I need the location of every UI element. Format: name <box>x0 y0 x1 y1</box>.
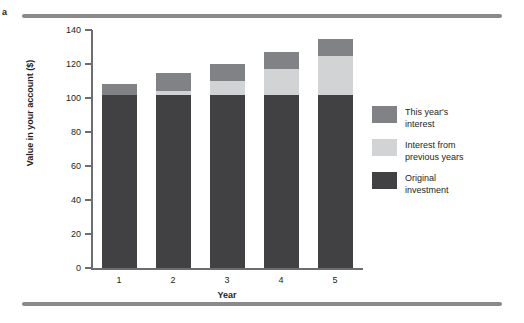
chart-legend: This year's interestInterest from previo… <box>372 106 520 205</box>
y-axis-tick <box>85 63 92 65</box>
legend-swatch <box>372 172 397 189</box>
bar-segment <box>264 95 299 268</box>
legend-swatch <box>372 106 397 123</box>
x-axis-tick-label: 5 <box>315 275 355 285</box>
legend-swatch <box>372 139 397 156</box>
y-axis-tick <box>85 165 92 167</box>
x-axis-title: Year <box>92 290 362 300</box>
bar-stack <box>264 52 299 268</box>
plot-area <box>92 30 362 268</box>
bar-segment <box>318 56 353 95</box>
y-axis-tick <box>85 199 92 201</box>
divider-bottom <box>22 302 502 306</box>
x-axis-tick-label: 3 <box>207 275 247 285</box>
x-axis-tick-label: 2 <box>153 275 193 285</box>
y-axis-tick <box>85 29 92 31</box>
y-axis-tick-label: 20 <box>47 230 81 239</box>
y-axis-tick-label: 60 <box>47 162 81 171</box>
bar-segment <box>210 64 245 81</box>
legend-item: This year's interest <box>372 106 520 130</box>
y-axis-tick-label: 40 <box>47 196 81 205</box>
y-axis-tick <box>85 131 92 133</box>
y-axis-tick <box>85 97 92 99</box>
y-axis-tick-label: 120 <box>47 60 81 69</box>
x-axis-line <box>91 268 363 270</box>
bar-stack <box>318 39 353 268</box>
divider-top <box>22 14 502 18</box>
y-axis-tick-label: 80 <box>47 128 81 137</box>
chart-figure: a 020406080100120140 Value in your accou… <box>0 0 524 323</box>
x-axis-tick-label: 4 <box>261 275 301 285</box>
legend-item: Original investment <box>372 172 520 196</box>
bar-stack <box>156 73 191 268</box>
y-axis-tick <box>85 267 92 269</box>
legend-label: This year's interest <box>405 106 448 130</box>
bar-segment <box>102 84 137 94</box>
bar-segment <box>210 81 245 95</box>
bar-stack <box>210 64 245 268</box>
x-axis-tick-label: 1 <box>99 275 139 285</box>
legend-label: Original investment <box>405 172 449 196</box>
bar-segment <box>156 95 191 268</box>
bar-segment <box>210 95 245 268</box>
y-axis-tick-label: 100 <box>47 94 81 103</box>
y-axis-tick-label: 0 <box>47 264 81 273</box>
bar-segment <box>156 73 191 92</box>
panel-letter: a <box>2 7 7 17</box>
y-axis-tick-label: 140 <box>47 26 81 35</box>
y-axis-title: Value in your account ($) <box>25 43 35 183</box>
bar-segment <box>318 39 353 56</box>
bar-segment <box>264 52 299 69</box>
bar-stack <box>102 84 137 268</box>
legend-label: Interest from previous years <box>405 139 464 163</box>
bar-segment <box>102 95 137 268</box>
legend-item: Interest from previous years <box>372 139 520 163</box>
bar-segment <box>264 69 299 95</box>
bar-segment <box>318 95 353 268</box>
y-axis-tick <box>85 233 92 235</box>
